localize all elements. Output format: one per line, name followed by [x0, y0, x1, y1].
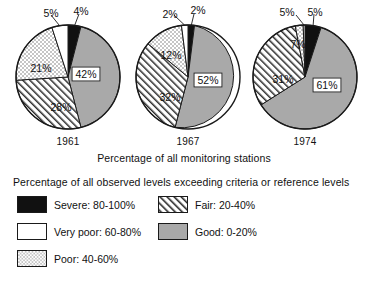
legend-label-fair: Fair: 20-40%	[195, 199, 255, 211]
poor-swatch-icon	[17, 250, 47, 267]
slice-value-severe: 5%	[307, 7, 322, 18]
slice-value-poor: 21%	[30, 63, 51, 74]
legend-item-severe: Severe: 80-100%	[17, 196, 135, 213]
slice-value-good: 61%	[312, 78, 341, 93]
legend-item-very-poor: Very poor: 60-80%	[17, 223, 141, 240]
legend: Severe: 80-100% Very poor: 60-80% Poor: …	[0, 196, 368, 281]
severe-swatch-icon	[17, 196, 47, 213]
chart-caption: Percentage of all monitoring stations	[0, 152, 368, 164]
fair-swatch-pattern	[159, 197, 188, 213]
very-poor-swatch-icon	[17, 223, 47, 240]
legend-item-fair: Fair: 20-40%	[158, 196, 255, 213]
leader-line-very-poor	[296, 15, 304, 25]
slice-value-fair: 28%	[50, 102, 71, 113]
pie-chart-figure: 42% 28% 21% 5% 4% 1961	[0, 0, 368, 281]
pie-1967-graphic	[128, 0, 248, 130]
legend-label-severe: Severe: 80-100%	[54, 199, 135, 211]
legend-item-good: Good: 0-20%	[158, 223, 257, 240]
leader-line-severe	[191, 14, 194, 25]
legend-item-poor: Poor: 40-60%	[17, 250, 118, 267]
pie-chart-1967: 52% 32% 12% 2% 2% 1967	[128, 0, 248, 150]
slice-value-severe: 2%	[190, 5, 205, 16]
pie-chart-1974: 61% 31% 7% 5% 5% 1974	[245, 0, 365, 150]
legend-title: Percentage of all observed levels exceed…	[13, 176, 349, 188]
pie-year-label-1967: 1967	[128, 136, 248, 147]
slice-value-severe: 4%	[73, 6, 88, 17]
slice-value-very-poor: 2%	[162, 9, 177, 20]
pie-1974-graphic	[245, 0, 365, 130]
pie-chart-row: 42% 28% 21% 5% 4% 1961	[0, 0, 368, 150]
fair-swatch-icon	[158, 196, 188, 213]
slice-value-poor: 7%	[290, 39, 305, 50]
slice-value-fair: 32%	[159, 92, 180, 103]
slice-value-good: 52%	[193, 73, 222, 88]
pie-year-label-1974: 1974	[245, 136, 365, 147]
slice-value-very-poor: 5%	[279, 7, 294, 18]
slice-value-fair: 31%	[272, 74, 293, 85]
pie-chart-1961: 42% 28% 21% 5% 4% 1961	[8, 0, 128, 150]
legend-label-poor: Poor: 40-60%	[54, 253, 118, 265]
legend-label-very-poor: Very poor: 60-80%	[54, 226, 141, 238]
slice-value-very-poor: 5%	[43, 8, 58, 19]
slice-value-good: 42%	[71, 67, 100, 82]
good-swatch-icon	[158, 223, 188, 240]
legend-label-good: Good: 0-20%	[195, 226, 257, 238]
pie-year-label-1961: 1961	[8, 136, 128, 147]
poor-swatch-pattern	[18, 251, 47, 267]
slice-value-poor: 12%	[160, 50, 181, 61]
